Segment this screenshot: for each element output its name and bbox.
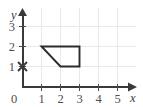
x-tick-label-5: 5 bbox=[114, 92, 120, 106]
plot-svg: 0 1 2 3 4 5 1 2 3 y x bbox=[0, 0, 143, 107]
x-tick-label-4: 4 bbox=[95, 92, 102, 106]
x-tick-label-1: 1 bbox=[38, 92, 44, 106]
y-axis bbox=[18, 8, 27, 87]
x-axis-label: x bbox=[129, 91, 136, 105]
y-tick-label-1: 1 bbox=[9, 60, 15, 74]
y-tick-label-3: 3 bbox=[9, 20, 15, 34]
y-axis-label: y bbox=[9, 8, 17, 22]
origin-label: 0 bbox=[11, 92, 17, 106]
x-tick-label-3: 3 bbox=[76, 92, 82, 106]
x-tick-label-2: 2 bbox=[57, 92, 63, 106]
y-tick-label-2: 2 bbox=[9, 40, 15, 54]
coordinate-plane-figure: 0 1 2 3 4 5 1 2 3 y x bbox=[0, 0, 143, 107]
y-axis-arrow-icon bbox=[18, 8, 27, 16]
